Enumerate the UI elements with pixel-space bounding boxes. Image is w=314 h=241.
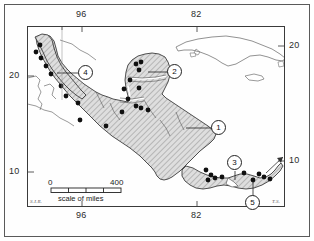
scale-bar-caption: scale of miles: [58, 194, 103, 203]
lat-label-left-10: 10: [9, 166, 20, 176]
screenshot-root: 96 82 96 82 20 10 20 10 1 2 3 4 5 0 400 …: [0, 0, 314, 241]
callout-1[interactable]: 1: [211, 120, 226, 135]
scale-bar-max-label: 400: [110, 178, 123, 187]
credit-right: T.S.: [272, 199, 280, 204]
lat-label-right-20: 20: [289, 40, 300, 50]
lon-label-bottom-96: 96: [76, 210, 87, 220]
callout-2[interactable]: 2: [167, 64, 182, 79]
credit-left: S.I.R.: [30, 199, 42, 204]
map-neatline: [27, 26, 285, 207]
lon-label-bottom-82: 82: [191, 210, 202, 220]
lat-label-left-20: 20: [9, 70, 20, 80]
scale-bar-zero-label: 0: [48, 178, 52, 187]
lon-label-top-96: 96: [76, 9, 87, 19]
callout-4[interactable]: 4: [78, 65, 93, 80]
lon-label-top-82: 82: [191, 9, 202, 19]
callout-5[interactable]: 5: [245, 195, 260, 210]
callout-3[interactable]: 3: [227, 155, 242, 170]
lat-label-right-10: 10: [289, 155, 300, 165]
